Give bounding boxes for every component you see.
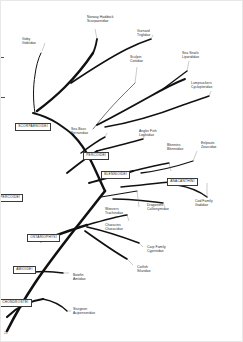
label-sturgeon-family: Acipenseridae xyxy=(73,311,95,315)
label-catfish-family: Siluridae xyxy=(137,269,151,273)
label-catfish: Catfish Siluridae xyxy=(137,265,151,274)
branch-goby xyxy=(34,53,42,113)
label-dragonets-family: Callionymidae xyxy=(147,207,169,211)
label-sea-snails-family: Liparididae xyxy=(182,55,199,59)
label-lumpsuckers: Lumpsuckers Cyclopteridae xyxy=(191,81,212,90)
clade-box-ostariophysi: OSTARIOPHYSI xyxy=(27,234,60,242)
edge-tick-upper xyxy=(1,57,4,58)
branch-cottoid-stem xyxy=(97,79,185,125)
label-sea-snails: Sea Snails Liparididae xyxy=(182,51,199,60)
page-marker: 23 xyxy=(4,331,7,335)
clade-box-chondrostei: CHONDROSTEI xyxy=(0,299,32,307)
branch-norway-haddock xyxy=(93,39,97,53)
clade-box-percoidei-upper: PERCOIDEI xyxy=(83,152,109,160)
label-lumpsuckers-family: Cyclopteridae xyxy=(191,85,212,89)
leader-weevers xyxy=(137,191,139,207)
leader-eelpouts xyxy=(193,151,197,161)
leader-catfish xyxy=(127,259,133,265)
label-carp-family: Carp Family Cyprinidae xyxy=(147,245,166,254)
label-sea-bass: Sea Bass Serranidae xyxy=(71,127,88,136)
label-norway-haddock-family: Scorpaenidae xyxy=(87,19,114,23)
leader-carp-family xyxy=(139,243,143,247)
clade-box-percoidei-left: PERCOIDEI xyxy=(0,194,23,202)
label-characins-family: Characidae xyxy=(105,227,123,231)
label-characins: Characins Characidae xyxy=(105,223,123,232)
label-eelpouts: Eelpouts Zoarcidae xyxy=(201,141,217,150)
branch-sturgeon xyxy=(43,299,67,311)
label-bowfin-family: Amiidae xyxy=(73,277,86,281)
leader-characins xyxy=(127,215,129,221)
clade-box-blennioidei: BLENNIOIDEI xyxy=(101,171,130,179)
label-angler-fish: Angler Fish Lophiidae xyxy=(139,129,157,138)
label-cod-family: Cod Family Gadidae xyxy=(195,199,213,208)
label-blennies-family: Blenniidae xyxy=(167,147,183,151)
label-norway-haddock: Norway Haddock Scorpaenidae xyxy=(87,15,114,24)
leader-sea-snails xyxy=(187,61,189,71)
label-gurnard-family: Triglidae xyxy=(137,33,150,37)
label-weevers-family: Trachinidae xyxy=(105,211,123,215)
leader-sea-bass xyxy=(105,133,107,137)
label-sturgeon: Sturgeon Acipenseridae xyxy=(73,307,95,316)
label-dragonets: Dragonets Callionymidae xyxy=(147,203,169,212)
label-cod-family-family: Gadidae xyxy=(195,203,213,207)
label-bowfin: Bowfin Amiidae xyxy=(73,273,86,282)
label-eelpouts-family: Zoarcidae xyxy=(201,145,217,149)
scorpaenoid-branches xyxy=(34,39,152,113)
leader-gurnard xyxy=(151,35,153,39)
cottoid-branches xyxy=(93,71,209,129)
branch-catfish xyxy=(85,231,127,259)
label-goby-family: Gobiidae xyxy=(22,41,36,45)
label-goby: Goby Gobiidae xyxy=(22,37,36,46)
label-gurnard: Gurnard Triglidae xyxy=(137,29,150,38)
label-carp-family-family: Cyprinidae xyxy=(147,249,166,253)
leader-norway-haddock xyxy=(95,29,97,39)
branch-blennies xyxy=(133,163,169,171)
label-blennies: Blennies Blenniidae xyxy=(167,143,183,152)
branch-weevers xyxy=(101,191,137,197)
label-sculpin: Sculpin Cottidae xyxy=(130,55,143,64)
label-sculpin-family: Cottidae xyxy=(130,59,143,63)
label-sea-bass-family: Serranidae xyxy=(71,131,88,135)
branch-angler-fish xyxy=(97,139,143,151)
label-weevers: Weevers Trachinidae xyxy=(105,207,123,216)
clade-box-anacanthini: ANACANTHINI xyxy=(167,178,198,186)
leader-lumpsuckers xyxy=(209,91,211,96)
clade-box-amioidei: AMIOIDEI xyxy=(13,266,36,274)
branch-lumpsuckers xyxy=(105,96,209,127)
leader-sculpin xyxy=(135,67,137,83)
edge-tick-lower xyxy=(1,97,5,98)
branch-cod-family xyxy=(177,185,207,197)
leader-goby xyxy=(42,43,45,51)
clade-box-scorpaenoidei: SCORPAENOIDEI xyxy=(15,123,51,131)
label-angler-fish-family: Lophiidae xyxy=(139,133,157,137)
branch-scorpaenoid-stem xyxy=(37,53,93,111)
figure-canvas: Goby Gobiidae Norway Haddock Scorpaenida… xyxy=(0,0,243,342)
